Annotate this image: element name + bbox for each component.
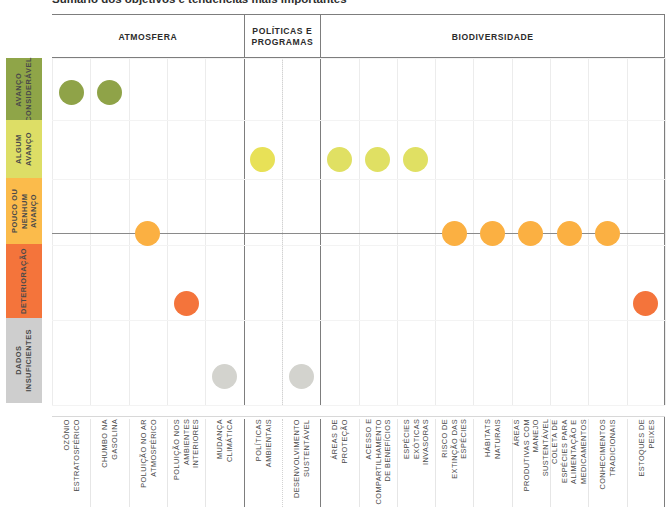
column-label-areas-de-protecao: ÁREAS DE PROTEÇÃO xyxy=(320,419,358,507)
rating-band-pouco-ou-nenhum-avanco: POUCO OU NENHUM AVANÇO xyxy=(6,178,42,244)
rating-band-algum-avanco: ALGUM AVANÇO xyxy=(6,120,42,178)
band-gridline xyxy=(52,179,665,180)
rating-band-dados-insuficientes: DADOS INSUFICIENTES xyxy=(6,318,42,403)
data-point-areas-de-protecao[interactable] xyxy=(327,147,352,172)
column-gridline xyxy=(167,58,168,405)
column-label-ozonio-estratosferico: OZÔNIO ESTRATOSFÉRICO xyxy=(52,419,90,507)
group-header-politicas-e-programas: POLÍTICAS E PROGRAMAS xyxy=(244,15,321,59)
column-label-poluicao-nos-ambientes-interiores: POLUIÇÃO NOS AMBIENTES INTERIORES xyxy=(167,419,205,507)
data-point-chumbo-na-gasolina[interactable] xyxy=(97,80,122,105)
rating-band-label: ALGUM AVANÇO xyxy=(14,132,33,166)
column-label-text: POLUIÇÃO NO AR ATMOSFÉRICO xyxy=(139,419,158,488)
column-gridline xyxy=(205,58,206,405)
group-header-label: BIODIVERSIDADE xyxy=(452,32,534,43)
column-label-text: ACESSO E COMPARTILHAMENTO DE BENEFÍCIOS xyxy=(364,419,393,504)
column-label-coleta-de-especies-para-alimentacao-e-medicame: COLETA DE ESPÉCIES PARA ALIMENTAÇÃO E ME… xyxy=(550,419,588,507)
column-label-text: ESPÉCIES EXÓTICAS INVASORAS xyxy=(402,419,431,465)
band-gridline xyxy=(52,58,665,59)
data-point-conhecimentos-tradicionais[interactable] xyxy=(595,221,620,246)
band-gridline xyxy=(52,320,665,321)
column-label-desenvolvimento-sustentavel: DESENVOLVIMENTO SUSTENTÁVEL xyxy=(282,419,320,507)
column-gridline xyxy=(512,58,513,405)
column-gridline xyxy=(473,58,474,405)
column-label-conhecimentos-tradicionais: CONHECIMENTOS TRADICIONAIS xyxy=(588,419,626,507)
column-label-especies-exoticas-invasoras: ESPÉCIES EXÓTICAS INVASORAS xyxy=(397,419,435,507)
column-gridline xyxy=(52,58,53,405)
group-header-atmosfera: ATMOSFERA xyxy=(52,15,244,59)
column-label-areas-produtivas-com-manejo-sustentavel: ÁREAS PRODUTIVAS COM MANEJO SUSTENTÁVEL xyxy=(512,419,550,507)
rating-band-avanco-consideravel: AVANÇO CONSIDERÁVEL xyxy=(6,58,42,120)
column-gridline xyxy=(397,58,398,405)
column-label-text: MUDANÇA CLIMÁTICA xyxy=(215,419,234,462)
column-label-habitats-naturais: HÁBITATS NATURAIS xyxy=(473,419,511,507)
data-point-politicas-ambientais[interactable] xyxy=(250,147,275,172)
column-label-text: POLUIÇÃO NOS AMBIENTES INTERIORES xyxy=(172,419,201,480)
column-label-risco-de-extincao-das-especies: RISCO DE EXTINÇÃO DAS ESPÉCIES xyxy=(435,419,473,507)
column-gridline xyxy=(90,58,91,405)
data-point-coleta-de-especies-para-alimentacao-e-medicame[interactable] xyxy=(557,221,582,246)
group-header-label: POLÍTICAS E PROGRAMAS xyxy=(251,26,313,48)
data-point-acesso-e-compartilhamento-de-beneficios[interactable] xyxy=(365,147,390,172)
column-label-text: DESENVOLVIMENTO SUSTENTÁVEL xyxy=(292,419,311,498)
column-label-poluicao-no-ar-atmosferico: POLUIÇÃO NO AR ATMOSFÉRICO xyxy=(129,419,167,507)
column-label-text: ÁREAS PRODUTIVAS COM MANEJO SUSTENTÁVEL xyxy=(512,419,551,491)
rating-band-label: POUCO OU NENHUM AVANÇO xyxy=(10,178,39,244)
rating-band-deterioracao: DETERIORAÇÃO xyxy=(6,244,42,318)
rating-band-label: DADOS INSUFICIENTES xyxy=(14,329,33,392)
band-gridline xyxy=(52,405,665,406)
column-gridline xyxy=(627,58,628,405)
column-label-text: RISCO DE EXTINÇÃO DAS ESPÉCIES xyxy=(440,419,469,479)
group-divider-line xyxy=(320,58,321,405)
column-label-politicas-ambientais: POLÍTICAS AMBIENTAIS xyxy=(244,419,282,507)
data-point-especies-exoticas-invasoras[interactable] xyxy=(403,147,428,172)
column-gridline-dotted xyxy=(282,58,283,405)
page-caption: Sumário dos objetivos e tendências mais … xyxy=(52,0,482,7)
chart-body xyxy=(52,58,665,405)
column-label-text: ÁREAS DE PROTEÇÃO xyxy=(330,419,349,464)
column-gridline xyxy=(550,58,551,405)
column-label-text: HÁBITATS NATURAIS xyxy=(483,419,502,459)
data-point-ozonio-estratosferico[interactable] xyxy=(59,80,84,105)
data-point-estoques-de-peixes[interactable] xyxy=(633,291,658,316)
column-label-text: ESTOQUES DE PEIXES xyxy=(637,419,656,477)
data-point-poluicao-no-ar-atmosferico[interactable] xyxy=(135,221,160,246)
column-label-text: COLETA DE ESPÉCIES PARA ALIMENTAÇÃO E ME… xyxy=(550,419,589,484)
data-point-desenvolvimento-sustentavel[interactable] xyxy=(289,364,314,389)
group-divider-line xyxy=(244,58,245,405)
column-label-chumbo-na-gasolina: CHUMBO NA GASOLINA xyxy=(90,419,128,507)
column-label-row: OZÔNIO ESTRATOSFÉRICOCHUMBO NA GASOLINAP… xyxy=(52,416,665,507)
rating-legend: AVANÇO CONSIDERÁVELALGUM AVANÇOPOUCO OU … xyxy=(6,58,42,403)
column-label-estoques-de-peixes: ESTOQUES DE PEIXES xyxy=(627,419,665,507)
column-label-mudanca-climatica: MUDANÇA CLIMÁTICA xyxy=(205,419,243,507)
group-header-label: ATMOSFERA xyxy=(118,32,177,43)
data-point-areas-produtivas-com-manejo-sustentavel[interactable] xyxy=(518,221,543,246)
column-label-text: POLÍTICAS AMBIENTAIS xyxy=(254,419,273,467)
group-header-row: ATMOSFERAPOLÍTICAS E PROGRAMASBIODIVERSI… xyxy=(52,14,665,58)
data-point-poluicao-nos-ambientes-interiores[interactable] xyxy=(174,291,199,316)
data-point-habitats-naturais[interactable] xyxy=(480,221,505,246)
group-header-biodiversidade: BIODIVERSIDADE xyxy=(320,15,665,59)
column-gridline xyxy=(129,58,130,405)
column-label-acesso-e-compartilhamento-de-beneficios: ACESSO E COMPARTILHAMENTO DE BENEFÍCIOS xyxy=(359,419,397,507)
column-gridline xyxy=(359,58,360,405)
band-gridline xyxy=(52,120,665,121)
data-point-risco-de-extincao-das-especies[interactable] xyxy=(442,221,467,246)
column-gridline xyxy=(665,58,666,405)
data-point-mudanca-climatica[interactable] xyxy=(212,364,237,389)
rating-band-label: AVANÇO CONSIDERÁVEL xyxy=(14,57,33,122)
column-label-text: OZÔNIO ESTRATOSFÉRICO xyxy=(62,419,81,492)
column-label-text: CONHECIMENTOS TRADICIONAIS xyxy=(598,419,617,490)
column-gridline xyxy=(588,58,589,405)
rating-band-label: DETERIORAÇÃO xyxy=(19,248,29,314)
column-gridline xyxy=(435,58,436,405)
column-label-text: CHUMBO NA GASOLINA xyxy=(100,419,119,468)
